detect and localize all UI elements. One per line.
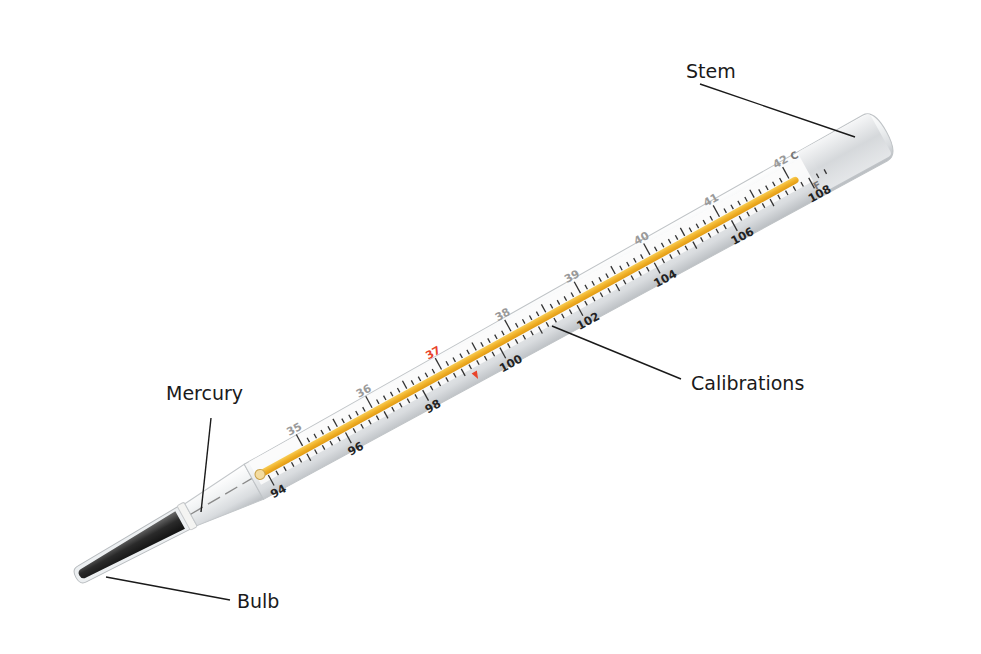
calibrations-leader-line	[552, 326, 681, 379]
celsius-scale-labels: 3536373839404142	[284, 153, 790, 439]
thermometer-diagram: 3536373839404142 949698100102104106108 C…	[0, 0, 981, 654]
mercury-column	[255, 176, 800, 480]
mercury-label: Mercury	[166, 382, 243, 404]
stem-label: Stem	[686, 60, 736, 82]
thermometer: 3536373839404142 949698100102104106108 C…	[61, 105, 900, 603]
stem-leader-line	[700, 84, 855, 137]
calibrations-label: Calibrations	[691, 372, 804, 394]
bulb-mercury	[75, 511, 185, 584]
bulb-leader-line	[106, 577, 230, 600]
bulb-label: Bulb	[237, 590, 279, 612]
